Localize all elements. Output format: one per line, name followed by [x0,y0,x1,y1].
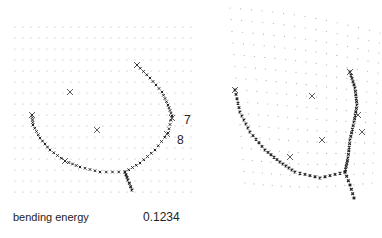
bending-energy-label: bending energy [13,211,89,223]
bending-energy-value: 0.1234 [143,210,180,224]
figure-canvas [0,0,382,238]
landmark-label-7: 7 [184,113,191,127]
landmark-label-8: 8 [177,133,184,147]
